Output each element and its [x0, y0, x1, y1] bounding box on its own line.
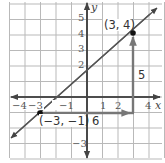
x-axis-label: x [155, 99, 162, 112]
svg-text:1: 1 [100, 100, 106, 111]
svg-text:−1: −1 [59, 100, 74, 111]
svg-text:−4: −4 [12, 100, 27, 111]
run-label: 6 [92, 114, 99, 128]
point-label-3-4: (3, 4) [104, 18, 135, 32]
svg-text:2: 2 [115, 100, 121, 111]
svg-text:5: 5 [78, 12, 84, 23]
svg-text:4: 4 [145, 100, 151, 111]
svg-text:−3: −3 [28, 100, 43, 111]
svg-text:4: 4 [78, 28, 84, 39]
x-tick-labels: −4 −3 −1 1 2 4 [11, 100, 151, 111]
svg-text:3: 3 [78, 43, 84, 54]
coordinate-graph: (3, 4) (−3, −1) 6 5 y x −4 −3 −1 1 2 4 5… [0, 0, 165, 163]
y-axis-label: y [90, 1, 98, 14]
svg-text:−3: −3 [72, 138, 87, 149]
svg-text:2: 2 [78, 59, 84, 70]
rise-label: 5 [138, 68, 145, 82]
point-label-neg3-neg1: (−3, −1) [39, 114, 89, 128]
